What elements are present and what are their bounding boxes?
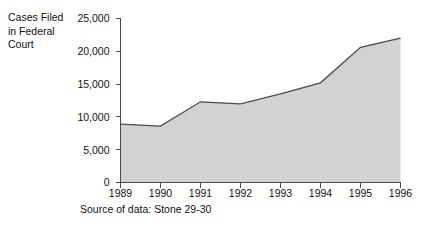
- x-tick-label: 1995: [349, 187, 373, 199]
- x-tick-label: 1990: [149, 187, 173, 199]
- x-axis-tick-labels: 19891990199119921993199419951996: [109, 187, 413, 199]
- y-axis-tick-marks: [116, 19, 121, 183]
- area-chart-plot: 05,00010,00015,00020,00025,000 198919901…: [0, 0, 428, 225]
- y-tick-label: 20,000: [77, 45, 109, 57]
- x-tick-label: 1994: [309, 187, 333, 199]
- source-note: Source of data: Stone 29-30: [80, 203, 211, 216]
- series-area-fill: [121, 38, 401, 182]
- x-tick-label: 1992: [229, 187, 253, 199]
- chart-figure: Cases Filed in Federal Court 05,00010,00…: [0, 0, 428, 225]
- y-tick-label: 25,000: [77, 12, 109, 24]
- x-tick-label: 1996: [389, 187, 413, 199]
- x-tick-label: 1993: [269, 187, 293, 199]
- x-tick-label: 1989: [109, 187, 133, 199]
- x-tick-label: 1991: [189, 187, 213, 199]
- y-tick-label: 5,000: [83, 144, 109, 156]
- y-axis-tick-labels: 05,00010,00015,00020,00025,000: [77, 12, 109, 188]
- y-tick-label: 15,000: [77, 78, 109, 90]
- y-tick-label: 10,000: [77, 111, 109, 123]
